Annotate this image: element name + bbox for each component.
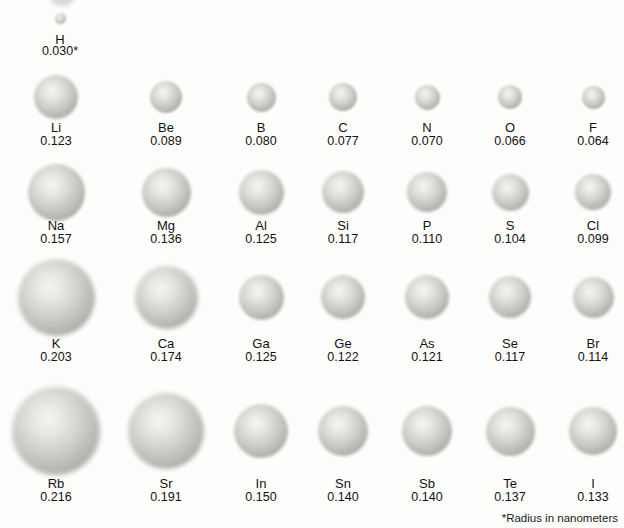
element-radius-In: 0.150 [245, 491, 276, 504]
element-symbol-Ge: Ge [334, 337, 351, 351]
element-symbol-I: I [591, 477, 595, 491]
element-symbol-O: O [505, 121, 515, 135]
atom-sphere-Sr [128, 393, 204, 469]
atom-sphere-Al [239, 170, 284, 215]
atom-sphere-Na [28, 164, 85, 221]
element-radius-Ga: 0.125 [245, 351, 276, 364]
element-radius-I: 0.133 [577, 491, 608, 504]
element-radius-Si: 0.117 [328, 233, 358, 246]
atomic-radii-figure: H0.030*Li0.123Be0.089B0.080C0.077N0.070O… [0, 0, 624, 528]
atom-sphere-As [405, 275, 449, 319]
atom-sphere-Sb [402, 406, 452, 456]
element-symbol-Se: Se [502, 337, 518, 351]
element-symbol-Br: Br [587, 337, 600, 351]
atom-sphere-K [18, 259, 95, 336]
atom-sphere-Ge [321, 275, 365, 319]
element-radius-Be: 0.089 [150, 135, 181, 148]
element-radius-F: 0.064 [577, 135, 608, 148]
element-radius-O: 0.066 [494, 135, 525, 148]
element-radius-N: 0.070 [411, 135, 442, 148]
element-radius-Sb: 0.140 [411, 491, 442, 504]
element-radius-Sr: 0.191 [150, 491, 181, 504]
element-radius-Na: 0.157 [40, 233, 71, 246]
element-symbol-Si: Si [337, 219, 349, 233]
element-symbol-P: P [423, 219, 432, 233]
element-symbol-Al: Al [255, 219, 267, 233]
atom-sphere-Te [486, 407, 535, 456]
element-radius-As: 0.121 [411, 351, 442, 364]
element-radius-Al: 0.125 [245, 233, 276, 246]
element-symbol-Sr: Sr [160, 477, 173, 491]
element-symbol-Cl: Cl [587, 219, 599, 233]
atom-sphere-Li [34, 75, 78, 119]
element-symbol-In: In [256, 477, 267, 491]
element-radius-Rb: 0.216 [40, 491, 71, 504]
element-symbol-Be: Be [158, 121, 174, 135]
element-symbol-Ca: Ca [158, 337, 175, 351]
atom-sphere-In [234, 404, 288, 458]
element-radius-Cl: 0.099 [577, 233, 608, 246]
scan-artifact [50, 0, 74, 6]
element-symbol-K: K [52, 337, 61, 351]
element-symbol-F: F [589, 121, 597, 135]
element-symbol-Li: Li [51, 121, 61, 135]
element-radius-S: 0.104 [494, 233, 525, 246]
element-symbol-B: B [257, 121, 266, 135]
element-symbol-Na: Na [48, 219, 65, 233]
element-radius-Li: 0.123 [40, 135, 71, 148]
radius-unit-footnote: *Radius in nanometers [502, 512, 618, 524]
atom-sphere-N [415, 85, 440, 110]
atom-sphere-Sn [318, 406, 368, 456]
element-radius-H: 0.030* [42, 45, 78, 58]
element-symbol-Te: Te [503, 477, 517, 491]
atom-sphere-Mg [142, 168, 191, 217]
element-symbol-Rb: Rb [48, 477, 65, 491]
element-symbol-Mg: Mg [157, 219, 175, 233]
atom-sphere-B [247, 83, 276, 112]
element-symbol-Sb: Sb [419, 477, 435, 491]
element-radius-Ge: 0.122 [327, 351, 358, 364]
element-radius-Ca: 0.174 [150, 351, 181, 364]
atom-sphere-P [407, 172, 447, 212]
atom-sphere-Br [573, 277, 614, 318]
element-radius-Te: 0.137 [494, 491, 525, 504]
element-symbol-C: C [338, 121, 347, 135]
atom-sphere-Si [322, 171, 364, 213]
element-radius-Se: 0.117 [495, 351, 525, 364]
element-radius-K: 0.203 [40, 351, 71, 364]
element-radius-Br: 0.114 [578, 351, 608, 364]
atom-sphere-Be [150, 81, 182, 113]
atom-sphere-Rb [12, 387, 100, 475]
element-radius-B: 0.080 [245, 135, 276, 148]
atom-sphere-Ga [239, 275, 284, 320]
atom-sphere-Ca [135, 266, 198, 329]
atom-sphere-I [569, 407, 617, 455]
atom-sphere-H [55, 13, 66, 24]
atom-sphere-S [492, 174, 529, 211]
element-radius-Sn: 0.140 [327, 491, 358, 504]
element-symbol-As: As [419, 337, 434, 351]
element-radius-Mg: 0.136 [150, 233, 181, 246]
atom-sphere-Se [489, 276, 531, 318]
atom-sphere-O [498, 85, 522, 109]
atom-sphere-Cl [575, 174, 611, 210]
element-symbol-Ga: Ga [252, 337, 269, 351]
element-symbol-S: S [506, 219, 515, 233]
element-radius-P: 0.110 [412, 233, 442, 246]
element-symbol-Sn: Sn [335, 477, 351, 491]
element-symbol-N: N [422, 121, 431, 135]
atom-sphere-C [329, 83, 357, 111]
element-radius-C: 0.077 [327, 135, 358, 148]
atom-sphere-F [582, 86, 605, 109]
